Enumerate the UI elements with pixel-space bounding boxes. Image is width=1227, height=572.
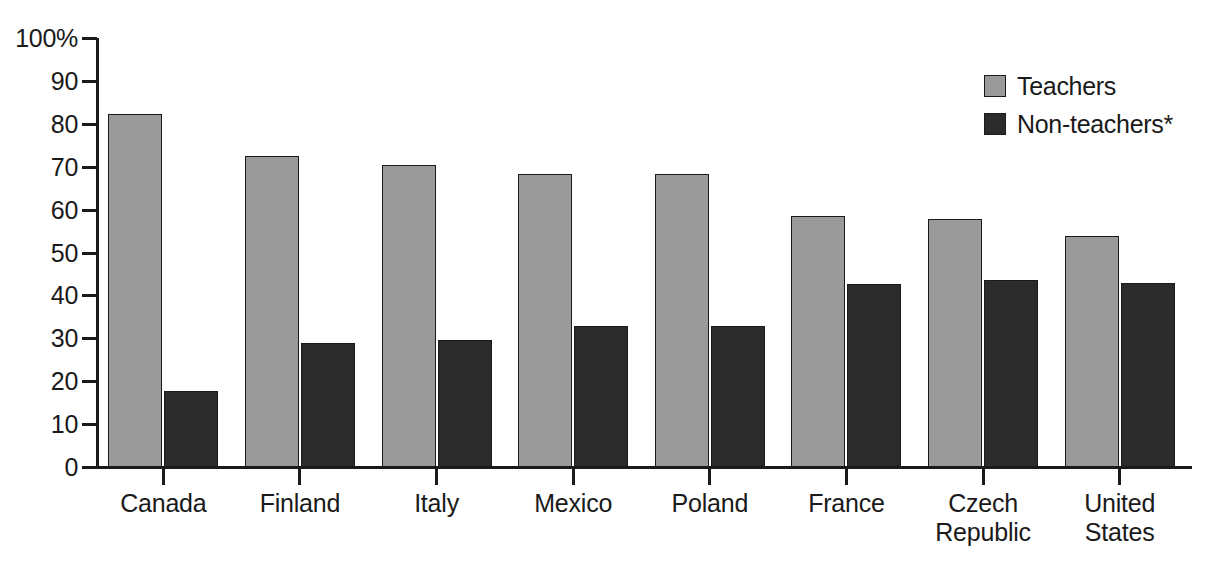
y-axis-tick-mark	[82, 37, 97, 40]
cropped-header-text	[0, 0, 1227, 4]
bar-chart: 100%9080706050403020100 CanadaFinlandIta…	[0, 0, 1227, 572]
bar-group	[245, 38, 355, 467]
y-axis-tick-label: 50	[0, 240, 78, 265]
x-axis-tick-mark	[435, 469, 438, 485]
legend-swatch-nonteachers	[984, 113, 1006, 135]
y-axis-tick-mark	[82, 380, 97, 383]
bar-group	[382, 38, 492, 467]
bar-teachers[interactable]	[928, 219, 982, 467]
bar-group	[518, 38, 628, 467]
chart-legend: TeachersNon-teachers*	[984, 70, 1224, 146]
bar-teachers[interactable]	[518, 174, 572, 467]
bar-nonteachers[interactable]	[847, 284, 901, 467]
bar-nonteachers[interactable]	[984, 280, 1038, 467]
y-axis-tick-label: 80	[0, 111, 78, 136]
y-axis-tick-label: 10	[0, 412, 78, 437]
y-axis-tick-mark	[82, 166, 97, 169]
x-axis-tick-mark	[572, 469, 575, 485]
bar-group	[791, 38, 901, 467]
x-axis-tick-mark	[708, 469, 711, 485]
x-axis-tick-mark	[845, 469, 848, 485]
bar-nonteachers[interactable]	[301, 343, 355, 467]
x-axis-tick-label: United States	[1010, 489, 1227, 547]
x-axis-tick-mark	[982, 469, 985, 485]
bar-teachers[interactable]	[108, 114, 162, 467]
legend-item[interactable]: Non-teachers*	[984, 108, 1224, 140]
y-axis-tick-mark	[82, 337, 97, 340]
y-axis-tick-mark	[82, 294, 97, 297]
y-axis-tick-label: 90	[0, 68, 78, 93]
legend-item[interactable]: Teachers	[984, 70, 1224, 102]
bar-nonteachers[interactable]	[711, 326, 765, 467]
bar-nonteachers[interactable]	[1121, 283, 1175, 467]
y-axis-labels: 100%9080706050403020100	[0, 0, 78, 572]
y-axis-tick-mark	[82, 209, 97, 212]
y-axis-tick-label: 40	[0, 283, 78, 308]
y-axis-tick-mark	[82, 423, 97, 426]
bar-teachers[interactable]	[791, 216, 845, 467]
bar-teachers[interactable]	[245, 156, 299, 467]
bar-nonteachers[interactable]	[164, 391, 218, 467]
bar-teachers[interactable]	[382, 165, 436, 467]
x-axis-tick-mark	[162, 469, 165, 485]
bar-group	[655, 38, 765, 467]
bar-nonteachers[interactable]	[438, 340, 492, 467]
legend-label: Teachers	[1017, 74, 1116, 99]
bar-teachers[interactable]	[655, 174, 709, 467]
y-axis-tick-label: 70	[0, 154, 78, 179]
y-axis-tick-label: 0	[0, 455, 78, 480]
x-axis-tick-mark	[1118, 469, 1121, 485]
bar-teachers[interactable]	[1065, 236, 1119, 467]
x-axis-tick-mark	[298, 469, 301, 485]
y-axis-tick-label: 30	[0, 326, 78, 351]
bar-group	[108, 38, 218, 467]
y-axis-tick-mark	[82, 123, 97, 126]
legend-label: Non-teachers*	[1017, 112, 1173, 137]
y-axis-tick-label: 100%	[0, 26, 78, 51]
y-axis-tick-label: 60	[0, 197, 78, 222]
y-axis-tick-mark	[82, 466, 97, 469]
legend-swatch-teachers	[984, 75, 1006, 97]
y-axis-tick-mark	[82, 80, 97, 83]
cropped-header-text-label	[420, 0, 426, 4]
bar-nonteachers[interactable]	[574, 326, 628, 467]
y-axis-tick-mark	[82, 252, 97, 255]
y-axis-tick-label: 20	[0, 369, 78, 394]
